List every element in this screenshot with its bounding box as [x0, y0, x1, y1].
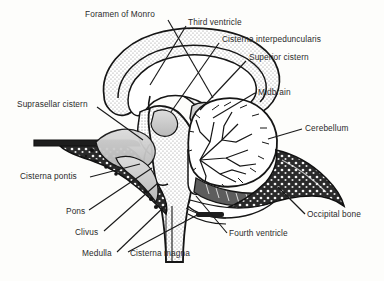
cisterna-interpeduncularis: [151, 110, 178, 136]
label-occipital-bone: Occipital bone: [307, 210, 361, 219]
label-cisterna-interpeduncularis: Cisterna interpeduncularis: [222, 35, 321, 44]
label-fourth-ventricle: Fourth ventricle: [229, 229, 288, 238]
figure-canvas: Foramen of MonroThird ventricleCisterna …: [0, 0, 384, 281]
label-superior-cistern: Superior cistern: [249, 53, 309, 62]
label-suprasellar-cistern: Suprasellar cistern: [17, 100, 88, 109]
label-pons: Pons: [66, 207, 85, 216]
label-third-ventricle: Third ventricle: [188, 18, 242, 27]
cisterna-pontis: [116, 156, 158, 202]
leader-clivus: [104, 183, 158, 231]
label-medulla: Medulla: [82, 249, 112, 258]
label-cisterna-magna: Cisterna magna: [130, 249, 190, 258]
label-clivus: Clivus: [75, 228, 98, 237]
label-cisterna-pontis: Cisterna pontis: [20, 172, 77, 181]
brain-sagittal-illustration: [0, 0, 384, 281]
label-foramen-of-monro: Foramen of Monro: [85, 10, 155, 19]
label-midbrain: Midbrain: [258, 88, 291, 97]
label-cerebellum: Cerebellum: [305, 124, 348, 133]
